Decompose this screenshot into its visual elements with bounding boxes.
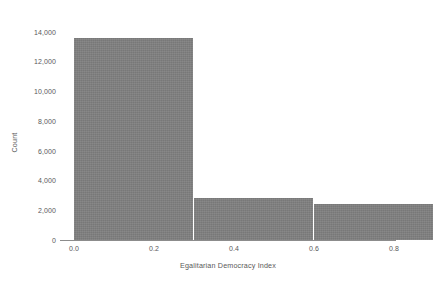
x-axis-title: Egalitarian Democracy Index	[60, 261, 396, 270]
x-axis-line	[60, 240, 396, 241]
y-tick-label: 10,000	[12, 88, 56, 95]
y-tick-label: 0	[12, 237, 56, 244]
y-tick-label: 14,000	[12, 28, 56, 35]
y-axis-tick-labels: 02,0004,0006,0008,00010,00012,00014,000	[8, 0, 56, 284]
y-tick-label: 8,000	[12, 117, 56, 124]
y-tick-label: 2,000	[12, 207, 56, 214]
y-tick-label: 12,000	[12, 58, 56, 65]
plot-area	[60, 19, 396, 240]
x-tick-label: 0.4	[229, 245, 239, 252]
x-tick-label: 0.8	[389, 245, 399, 252]
histogram-bar	[194, 198, 313, 240]
y-tick-label: 6,000	[12, 147, 56, 154]
x-tick-label: 0.0	[69, 245, 79, 252]
x-tick-label: 0.6	[309, 245, 319, 252]
y-tick-label: 4,000	[12, 177, 56, 184]
histogram-bar	[74, 38, 193, 240]
histogram-bar	[314, 204, 433, 240]
x-tick-label: 0.2	[149, 245, 159, 252]
